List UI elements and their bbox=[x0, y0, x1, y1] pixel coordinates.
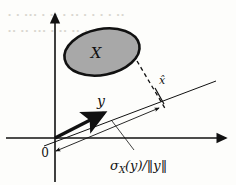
caption-leader-line bbox=[112, 121, 134, 150]
diagram-canvas: • • ••• • •• • •• • • • • •• •• •• ••• •… bbox=[0, 0, 236, 185]
support-function-figure: • • ••• • •• • •• • • • • •• •• •• ••• •… bbox=[0, 0, 236, 185]
caption-argument: (y)/‖y‖ bbox=[125, 158, 167, 173]
bleed-line-1: • • ••• • •• • •• • • • • •• bbox=[8, 10, 126, 20]
origin-label: 0 bbox=[41, 146, 49, 160]
supporting-hyperplane bbox=[44, 81, 216, 146]
distance-caption: σ X (y)/‖y‖ bbox=[110, 158, 167, 175]
support-point-tick bbox=[155, 88, 164, 104]
support-point-label: x̂ bbox=[159, 74, 166, 87]
set-label-x: X bbox=[90, 44, 103, 62]
vector-label-y: y bbox=[96, 93, 106, 109]
